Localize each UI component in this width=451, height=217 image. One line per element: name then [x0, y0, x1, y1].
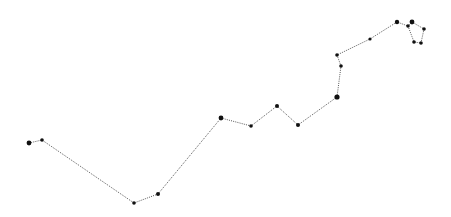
path-diagram [0, 0, 451, 217]
path-node [368, 37, 371, 40]
path-node [296, 123, 300, 127]
path-node [275, 104, 279, 108]
dotted-path-line [29, 22, 424, 203]
path-node [27, 141, 32, 146]
path-node [410, 20, 415, 25]
path-node [422, 27, 426, 31]
path-node [406, 24, 410, 28]
path-node [339, 64, 343, 68]
path-node [156, 192, 160, 196]
path-node [334, 94, 339, 99]
path-node [132, 201, 136, 205]
path-diagram-svg [0, 0, 451, 217]
path-node [40, 138, 44, 142]
path-node [219, 116, 224, 121]
path-node [335, 53, 339, 57]
path-node [395, 20, 399, 24]
path-node [412, 40, 416, 44]
path-node [419, 41, 423, 45]
path-nodes [27, 20, 426, 205]
path-node [249, 124, 253, 128]
